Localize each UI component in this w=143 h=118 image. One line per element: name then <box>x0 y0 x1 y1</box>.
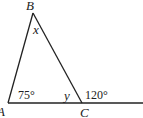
angle-a-label: 75° <box>18 88 35 102</box>
angle-c-interior-label: y <box>62 88 70 103</box>
angle-b-label: x <box>32 22 39 37</box>
angle-c-exterior-label: 120° <box>85 88 108 102</box>
vertex-b-label: B <box>26 0 34 13</box>
vertex-a-label: A <box>0 104 5 118</box>
vertex-c-label: C <box>80 105 89 118</box>
side-bc <box>33 13 82 103</box>
triangle-diagram: B A C x 75° y 120° <box>0 0 143 118</box>
